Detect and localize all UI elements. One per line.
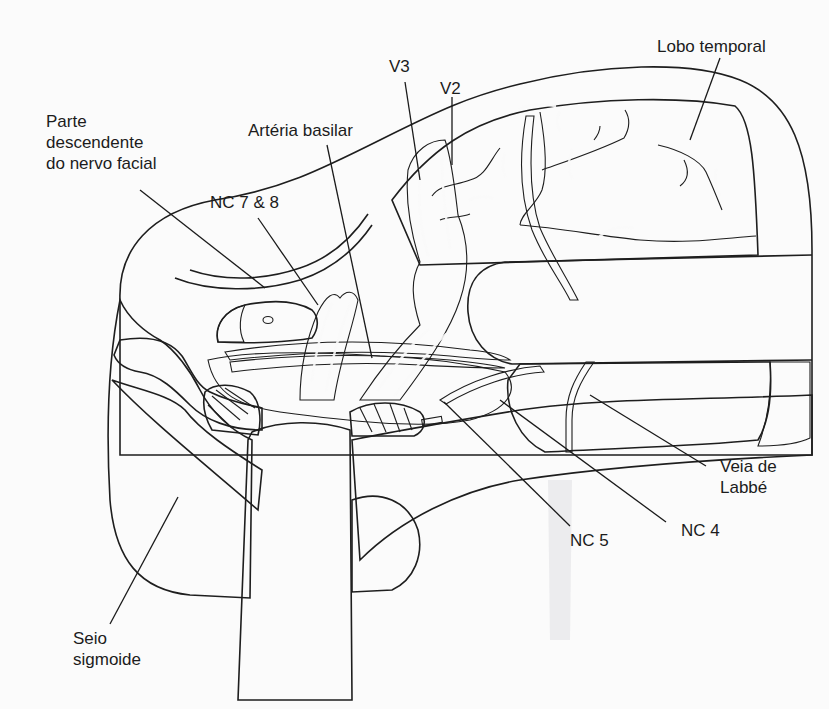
label-temporal-lobe: Lobo temporal: [657, 36, 766, 57]
sigmoid-inner-fold: [112, 380, 262, 510]
anatomical-figure: Parte descendente do nervo facial NC 7 &…: [0, 0, 829, 709]
petrous-knob: [217, 302, 317, 343]
label-sigmoid-sinus: Seio sigmoide: [73, 628, 141, 670]
facial-nerve-arc-inner: [190, 214, 368, 278]
iac-opening: [263, 317, 273, 324]
dural-flap-left: [114, 338, 262, 430]
labbe-vein: [566, 362, 594, 452]
temporal-retractor: [468, 255, 812, 364]
label-facial-nerve: Parte descendente do nervo facial: [46, 111, 157, 174]
trigeminal-nerve: [360, 140, 467, 400]
cn4-nerve: [440, 366, 544, 404]
illustration: [0, 0, 829, 709]
label-labbe-vein: Veia de Labbé: [720, 456, 777, 498]
tentorial-edge-light: [758, 362, 810, 446]
petrous-knob-shadow: [217, 305, 245, 342]
label-cn5: NC 5: [570, 530, 609, 551]
outer-dura-band: [120, 67, 812, 455]
label-cn78: NC 7 & 8: [210, 192, 279, 213]
label-basilar-artery: Artéria basilar: [248, 120, 353, 141]
label-v3: V3: [389, 56, 410, 77]
jugular-ghost: [548, 480, 572, 640]
cerebellar-retractor: [238, 423, 352, 700]
sigmoid-lower-bulge: [352, 496, 420, 592]
label-v2: V2: [440, 78, 461, 99]
facial-nerve-arc: [175, 225, 372, 289]
basilar-artery: [225, 342, 510, 360]
label-cn4: NC 4: [681, 520, 720, 541]
